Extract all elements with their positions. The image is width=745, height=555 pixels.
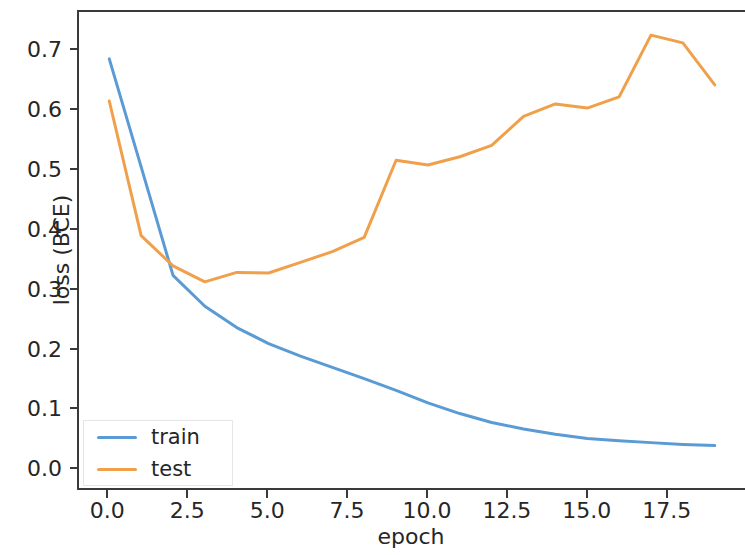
x-axis-label: epoch xyxy=(77,524,745,549)
legend: train test xyxy=(83,420,233,486)
y-tick-label: 0.7 xyxy=(0,37,62,62)
x-tick-label: 5.0 xyxy=(250,498,285,523)
x-tick-mark xyxy=(106,490,108,498)
y-tick-mark xyxy=(70,407,77,409)
x-tick-mark xyxy=(346,490,348,498)
plot-area xyxy=(77,10,745,490)
y-tick-mark xyxy=(70,467,77,469)
y-tick-label: 0.2 xyxy=(0,336,62,361)
y-axis-label-container: loss (BCE) xyxy=(8,0,34,500)
x-tick-label: 0.0 xyxy=(90,498,125,523)
y-tick-mark xyxy=(70,228,77,230)
legend-label-test: test xyxy=(151,459,191,480)
x-tick-label: 15.0 xyxy=(562,498,611,523)
legend-label-train: train xyxy=(151,427,200,448)
legend-swatch-train xyxy=(97,436,137,439)
line-test xyxy=(109,35,714,282)
x-tick-label: 12.5 xyxy=(482,498,531,523)
x-tick-mark xyxy=(506,490,508,498)
y-tick-label: 0.4 xyxy=(0,216,62,241)
y-tick-label: 0.0 xyxy=(0,456,62,481)
y-tick-mark xyxy=(70,168,77,170)
y-tick-mark xyxy=(70,348,77,350)
x-tick-label: 2.5 xyxy=(170,498,205,523)
legend-swatch-test xyxy=(97,468,137,471)
legend-item-test[interactable]: test xyxy=(84,453,232,486)
x-tick-mark xyxy=(186,490,188,498)
x-tick-mark xyxy=(426,490,428,498)
y-tick-mark xyxy=(70,288,77,290)
x-tick-mark xyxy=(266,490,268,498)
x-tick-label: 10.0 xyxy=(402,498,451,523)
plot-lines xyxy=(79,12,745,488)
y-tick-label: 0.1 xyxy=(0,396,62,421)
y-tick-mark xyxy=(70,108,77,110)
legend-item-train[interactable]: train xyxy=(84,421,232,454)
x-tick-mark xyxy=(586,490,588,498)
x-tick-mark xyxy=(666,490,668,498)
y-tick-label: 0.6 xyxy=(0,97,62,122)
line-train xyxy=(109,59,714,446)
y-tick-label: 0.5 xyxy=(0,157,62,182)
y-tick-mark xyxy=(70,48,77,50)
x-tick-label: 7.5 xyxy=(330,498,365,523)
y-tick-label: 0.3 xyxy=(0,276,62,301)
x-tick-label: 17.5 xyxy=(642,498,691,523)
